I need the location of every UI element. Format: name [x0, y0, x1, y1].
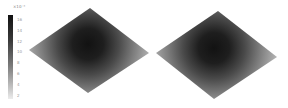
heatmap-left	[29, 8, 149, 93]
heatmap-right	[156, 11, 277, 99]
heatmap-panels	[0, 0, 288, 108]
figure: ×10⁻³ 16 14 12 10 8 6 4 2	[0, 0, 288, 108]
